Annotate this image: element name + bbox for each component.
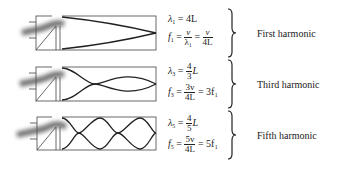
pipe-fifth-harmonic [17,115,156,150]
lambda-3-equation: λ3 = 43L [168,62,198,81]
f-5-equation: f5 = 5v4L = 5f₁ [168,135,218,154]
first-harmonic-label: First harmonic [257,28,316,39]
f-3-equation: f3 = 3v4L = 3f₁ [168,83,218,102]
pipe-first-harmonic [22,14,156,50]
pipe-third-harmonic [20,65,156,101]
third-harmonic-label: Third harmonic [257,79,319,90]
lambda-5-equation: λ5 = 45L [168,114,198,133]
fifth-harmonic-label: Fifth harmonic [257,130,317,141]
f-1-equation: f1 = vλ₁ = v4L [168,28,213,47]
lambda-1-equation: λ1 = 4L [168,14,197,25]
brace-group [228,9,236,159]
